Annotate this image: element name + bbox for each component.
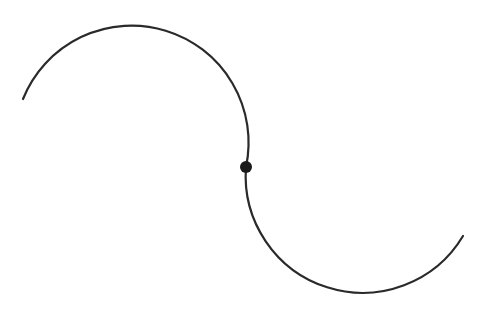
junction-point [240, 161, 252, 173]
lower-arc [246, 167, 463, 293]
s-curve-diagram [0, 0, 484, 327]
upper-arc [23, 26, 249, 167]
